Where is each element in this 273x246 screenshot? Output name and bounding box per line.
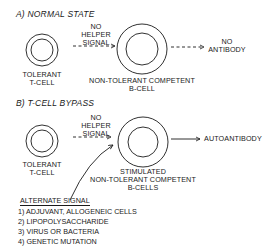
panel-a-b-cell-label: NON-TOLERANT COMPETENT B-CELL bbox=[86, 77, 198, 93]
panel-b-output: AUTOANTIBODY bbox=[204, 135, 262, 143]
list-item: 1) ADJUVANT, ALLOGENEIC CELLS bbox=[18, 207, 137, 217]
list-item: 3) VIRUS OR BACTERIA bbox=[18, 227, 137, 237]
alternate-signal-title: ALTERNATE SIGNAL bbox=[20, 196, 90, 206]
label-line: ANTIBODY bbox=[207, 46, 247, 54]
panel-a-t-cell-label: TOLERANT T-CELL bbox=[22, 71, 62, 87]
label-line: T-CELL bbox=[22, 79, 62, 87]
tolerant-t-cell-b bbox=[26, 125, 58, 157]
stimulated-b-cell bbox=[118, 117, 168, 167]
label-line: T-CELL bbox=[22, 169, 62, 177]
signal-line: SIGNAL bbox=[78, 39, 114, 47]
list-item: 2) LIPOPOLYSACCHARIDE bbox=[18, 217, 137, 227]
panel-b-b-cell-label: STIMULATED NON-TOLERANT COMPETENT B-CELL… bbox=[87, 168, 199, 192]
tolerant-t-cell-a bbox=[26, 34, 58, 66]
panel-b-title: B) T-CELL BYPASS bbox=[16, 98, 94, 108]
label-line: B-CELL bbox=[86, 85, 198, 93]
panel-b-signal: NO HELPER SIGNAL bbox=[78, 114, 114, 138]
panel-a-signal: NO HELPER SIGNAL bbox=[78, 23, 114, 47]
panel-b-t-cell-label: TOLERANT T-CELL bbox=[22, 161, 62, 177]
panel-a-output: NO ANTIBODY bbox=[207, 38, 247, 54]
panel-a-title: A) NORMAL STATE bbox=[16, 9, 95, 19]
alternate-signal-list: 1) ADJUVANT, ALLOGENEIC CELLS 2) LIPOPOL… bbox=[18, 207, 137, 246]
label-line: B-CELLS bbox=[87, 184, 199, 192]
list-item: 4) GENETIC MUTATION bbox=[18, 237, 137, 246]
b-cell-a bbox=[117, 24, 167, 74]
signal-line: SIGNAL bbox=[78, 130, 114, 138]
